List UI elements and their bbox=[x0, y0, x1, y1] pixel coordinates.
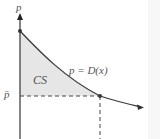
demand-curve-label: p = D(x) bbox=[69, 65, 108, 76]
price-level-label: p̄ bbox=[4, 89, 10, 100]
intercept-point bbox=[18, 29, 22, 33]
consumer-surplus-label: CS bbox=[33, 74, 47, 86]
y-axis-label: p bbox=[16, 2, 22, 13]
y-axis-arrow-icon bbox=[17, 13, 23, 20]
page-edge bbox=[148, 0, 160, 139]
consumer-surplus-diagram: p p̄ CS p = D(x) bbox=[0, 0, 160, 139]
demand-curve-arrow-icon bbox=[137, 105, 144, 111]
